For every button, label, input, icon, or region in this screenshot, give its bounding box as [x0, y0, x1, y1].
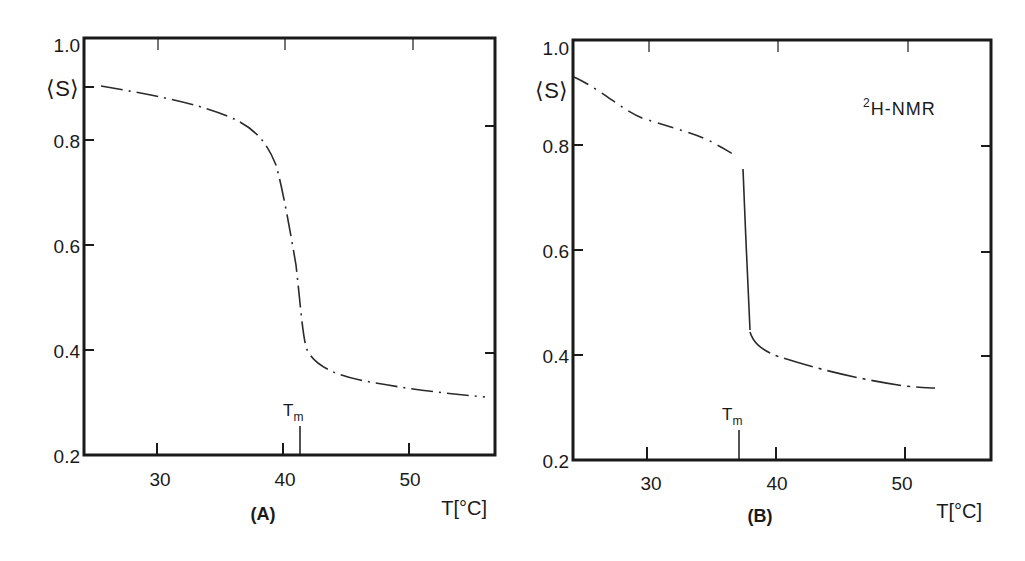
y-tick-label: 0.6 [543, 241, 569, 262]
tm-label-b: Tm [722, 405, 742, 428]
y-ticks-a [84, 38, 495, 455]
tm-label-a: Tm [283, 401, 303, 424]
y-tick-label: 0.8 [543, 136, 569, 157]
y-tick-label: 1.0 [543, 38, 569, 59]
panel-a: Tm 1.0 0.8 0.6 0.4 0.2 ⟨S⟩ 30 40 50 T[°C… [0, 0, 512, 561]
y-axis-label-b: ⟨S⟩ [535, 78, 568, 103]
curve-b-gel [574, 77, 737, 156]
panel-b: Tm 1.0 0.8 0.6 0.4 0.2 ⟨S⟩ 2H-NMR 30 40 … [512, 0, 1025, 561]
nmr-annotation: 2H-NMR [863, 96, 936, 119]
x-tick-label: 50 [399, 469, 420, 490]
y-tick-label: 1.0 [54, 35, 80, 56]
y-tick-label: 0.6 [54, 236, 80, 257]
x-tick-label: 30 [640, 473, 661, 494]
y-tick-label: 0.2 [543, 451, 569, 472]
x-tick-label: 50 [891, 473, 912, 494]
y-tick-label: 0.4 [54, 341, 81, 362]
panel-caption-b: (B) [748, 506, 773, 526]
curve-b-fluid [750, 332, 935, 388]
curve-b-transition [743, 169, 750, 330]
y-tick-label: 0.8 [54, 131, 80, 152]
curve-a [101, 86, 485, 397]
plot-frame-a [84, 38, 495, 455]
chart-a-svg: Tm 1.0 0.8 0.6 0.4 0.2 ⟨S⟩ 30 40 50 T[°C… [0, 0, 512, 561]
panel-caption-a: (A) [251, 504, 276, 524]
x-axis-label-b: T[°C] [936, 500, 982, 522]
chart-b-svg: Tm 1.0 0.8 0.6 0.4 0.2 ⟨S⟩ 2H-NMR 30 40 … [512, 0, 1025, 561]
y-tick-label: 0.2 [54, 446, 80, 467]
y-tick-label: 0.4 [543, 346, 570, 367]
x-tick-label: 40 [766, 473, 787, 494]
x-axis-label-a: T[°C] [441, 497, 487, 519]
y-axis-label-a: ⟨S⟩ [46, 76, 79, 101]
x-tick-label: 30 [149, 469, 170, 490]
x-tick-label: 40 [274, 469, 295, 490]
